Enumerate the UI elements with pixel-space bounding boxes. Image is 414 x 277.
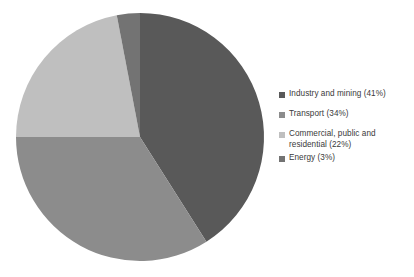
legend-item-industry-and-mining[interactable]: Industry and mining (41%) bbox=[279, 88, 413, 99]
pie-chart-figure: Industry and mining (41%) Transport (34%… bbox=[0, 0, 414, 277]
legend-label-transport: Transport (34%) bbox=[289, 108, 349, 119]
legend-item-commercial-public-and-residential[interactable]: Commercial, public and residential (22%) bbox=[279, 128, 413, 150]
legend-label-commercial-public-and-residential: Commercial, public and residential (22%) bbox=[289, 128, 376, 150]
legend-swatch-icon-transport bbox=[279, 112, 285, 118]
legend-item-energy[interactable]: Energy (3%) bbox=[279, 152, 413, 163]
legend-label-industry-and-mining: Industry and mining (41%) bbox=[289, 88, 386, 99]
legend-label-energy: Energy (3%) bbox=[289, 152, 335, 163]
legend-swatch-icon-industry-and-mining bbox=[279, 92, 285, 98]
chart-legend: Industry and mining (41%) Transport (34%… bbox=[279, 88, 413, 172]
legend-item-transport[interactable]: Transport (34%) bbox=[279, 108, 413, 119]
legend-swatch-icon-energy bbox=[279, 156, 285, 162]
legend-swatch-icon-commercial-public-and-residential bbox=[279, 132, 285, 138]
